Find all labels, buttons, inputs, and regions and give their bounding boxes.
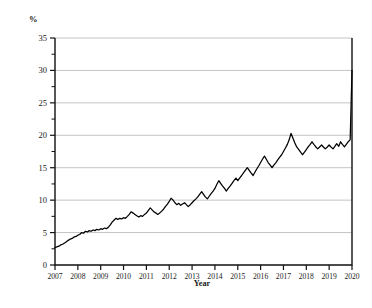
x-tick-label: 2007	[47, 272, 62, 281]
x-tick-label: 2019	[322, 272, 337, 281]
data-series-group	[55, 70, 352, 247]
x-tick-label: 2011	[139, 272, 154, 281]
x-tick-label: 2020	[344, 272, 359, 281]
y-tick-label: 10	[39, 195, 48, 205]
y-tick-label: 15	[39, 163, 48, 173]
x-tick-label: 2010	[116, 272, 131, 281]
x-tick-label: 2012	[162, 272, 177, 281]
y-tick-label: 25	[39, 98, 48, 108]
y-axis-ticks	[50, 38, 55, 265]
x-tick-label: 2009	[93, 272, 108, 281]
y-axis-unit-label: %	[29, 14, 38, 24]
y-axis-tick-labels: 05101520253035	[39, 33, 48, 270]
y-tick-label: 0	[43, 260, 47, 270]
x-tick-label: 2018	[299, 272, 314, 281]
x-axis-title: Year	[194, 279, 211, 288]
y-tick-label: 5	[43, 228, 47, 238]
x-tick-label: 2016	[253, 272, 268, 281]
x-tick-label: 2015	[230, 272, 245, 281]
axis-lines	[55, 38, 352, 265]
series-line	[55, 70, 352, 247]
plot-frame	[55, 38, 352, 265]
line-chart: 05101520253035 2007200820092010201120122…	[0, 0, 372, 308]
x-axis-ticks	[55, 265, 352, 270]
gridlines-group	[55, 38, 352, 233]
x-tick-label: 2017	[276, 272, 291, 281]
chart-container: 05101520253035 2007200820092010201120122…	[0, 0, 372, 308]
x-tick-label: 2008	[70, 272, 85, 281]
y-tick-label: 30	[39, 65, 48, 75]
y-tick-label: 20	[39, 130, 48, 140]
y-tick-label: 35	[39, 33, 48, 43]
